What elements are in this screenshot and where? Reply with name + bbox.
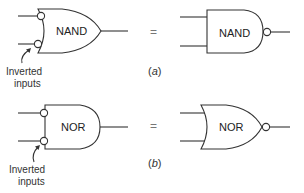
panel-caption-a: (a): [148, 65, 161, 77]
inverted-output-bubble: [262, 123, 269, 130]
annotation-arrow: [22, 50, 29, 63]
nand-or-form-gate: NAND: [18, 9, 128, 53]
annotation-line-2: inputs: [18, 176, 45, 187]
annotation-line-1: Inverted: [9, 164, 45, 175]
nor-and-form-gate: NOR: [18, 105, 128, 149]
inverted-input-bubble-1: [37, 12, 44, 19]
logic-gate-equivalence-diagram: NAND Inverted inputs = NAND (a): [0, 0, 304, 193]
gate-label: NOR: [61, 121, 86, 133]
equals-sign: =: [150, 119, 157, 133]
annotation-line-2: inputs: [14, 78, 41, 89]
annotation-arrow: [33, 147, 38, 162]
nor-or-form-gate: NOR: [180, 105, 290, 149]
gate-label: NOR: [219, 121, 244, 133]
panel-b: NOR Inverted inputs = NOR (b): [9, 105, 290, 187]
inverted-inputs-annotation: Inverted inputs: [9, 145, 45, 187]
gate-label: NAND: [219, 27, 250, 39]
inverted-input-bubble-2: [40, 137, 47, 144]
equals-sign: =: [150, 25, 157, 39]
panel-caption-b: (b): [148, 157, 161, 169]
inverted-input-bubble-2: [34, 40, 41, 47]
nand-and-form-gate: NAND: [180, 10, 290, 53]
inverted-inputs-annotation: Inverted inputs: [6, 48, 42, 89]
annotation-line-1: Inverted: [6, 66, 42, 77]
inverted-input-bubble-1: [40, 109, 47, 116]
gate-label: NAND: [56, 25, 87, 37]
panel-a: NAND Inverted inputs = NAND (a): [6, 9, 290, 89]
inverted-output-bubble: [263, 28, 270, 35]
